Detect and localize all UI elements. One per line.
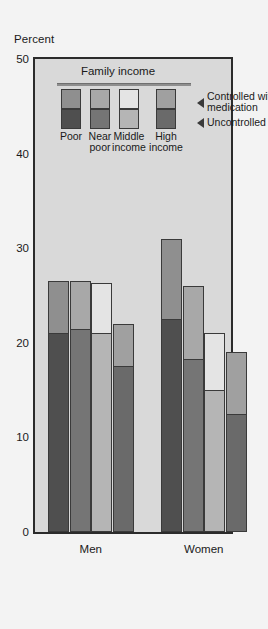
- legend-swatch-high: [156, 89, 176, 129]
- chart-legend: Family income PoorNearpoorMiddleincomeHi…: [45, 65, 231, 150]
- y-tick-label-0: 0: [3, 526, 29, 538]
- bar-men-high-income: [113, 324, 134, 532]
- bar-men-poor: [48, 281, 69, 532]
- legend-swatch-controlled: [119, 89, 139, 109]
- y-tick-label-30: 30: [3, 242, 29, 254]
- legend-label-line1: Poor: [60, 130, 82, 142]
- bar-women-near-poor: [183, 286, 204, 532]
- segment-uncontrolled: [48, 333, 69, 532]
- annotation-controlled-line2: medication: [207, 101, 258, 113]
- segment-uncontrolled: [226, 414, 247, 532]
- legend-label-high: Highincome: [146, 131, 186, 153]
- legend-swatch-uncontrolled: [90, 109, 110, 129]
- arrow-uncontrolled-icon: [197, 118, 204, 128]
- segment-controlled: [161, 239, 182, 320]
- legend-swatch-middle: [119, 89, 139, 129]
- y-tick-label-10: 10: [3, 431, 29, 443]
- y-tick-label-20: 20: [3, 337, 29, 349]
- plot-area: Family income PoorNearpoorMiddleincomeHi…: [33, 57, 233, 534]
- segment-controlled: [204, 333, 225, 391]
- segment-uncontrolled: [113, 366, 134, 532]
- legend-swatch-controlled: [156, 89, 176, 109]
- segment-controlled: [48, 281, 69, 334]
- bar-women-poor: [161, 239, 182, 532]
- y-tick-label-40: 40: [3, 148, 29, 160]
- group-label-women: Women: [184, 543, 223, 555]
- legend-swatch-controlled: [90, 89, 110, 109]
- legend-swatch-uncontrolled: [156, 109, 176, 129]
- bar-women-high-income: [226, 352, 247, 532]
- segment-controlled: [91, 283, 112, 334]
- legend-label-middle: Middleincome: [109, 131, 149, 153]
- segment-uncontrolled: [161, 319, 182, 532]
- segment-controlled: [226, 352, 247, 414]
- legend-swatch-poor: [61, 89, 81, 129]
- bar-men-near-poor: [70, 281, 91, 532]
- y-axis-title: Percent: [14, 33, 54, 45]
- y-tick-label-50: 50: [3, 53, 29, 65]
- annotation-controlled: Controlled with medication: [207, 91, 268, 113]
- legend-swatch-controlled: [61, 89, 81, 109]
- segment-uncontrolled: [70, 329, 91, 532]
- chart-figure: Percent 50403020100 Family income PoorNe…: [0, 0, 268, 629]
- arrow-controlled-icon: [197, 98, 204, 108]
- legend-label-line2: income: [109, 142, 149, 153]
- segment-uncontrolled: [204, 390, 225, 532]
- bar-men-middle-income: [91, 283, 112, 532]
- legend-title: Family income: [45, 65, 191, 77]
- segment-controlled: [70, 281, 91, 329]
- group-label-men: Men: [80, 543, 102, 555]
- legend-label-line2: income: [146, 142, 186, 153]
- segment-controlled: [113, 324, 134, 368]
- segment-controlled: [183, 286, 204, 360]
- segment-uncontrolled: [91, 333, 112, 532]
- legend-swatch-uncontrolled: [61, 109, 81, 129]
- legend-divider: [57, 83, 191, 86]
- segment-uncontrolled: [183, 359, 204, 532]
- legend-swatch-near: [90, 89, 110, 129]
- legend-swatch-uncontrolled: [119, 109, 139, 129]
- annotation-uncontrolled: Uncontrolled: [207, 117, 266, 128]
- bar-women-middle-income: [204, 333, 225, 532]
